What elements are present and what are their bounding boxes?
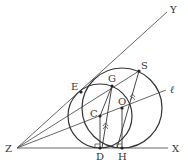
segment-gd	[102, 86, 112, 148]
label-h: H	[118, 151, 127, 162]
point-h	[120, 146, 123, 149]
label-o: O	[118, 96, 126, 107]
label-g: G	[108, 73, 116, 84]
label-c: C	[90, 108, 98, 119]
geometry-diagram: Z X Y ℓ D H C O G S E	[0, 0, 188, 163]
line-l	[17, 90, 166, 148]
point-c	[98, 114, 101, 117]
label-z: Z	[5, 143, 12, 154]
ray-zy	[17, 12, 167, 148]
label-d: D	[96, 151, 104, 162]
label-l: ℓ	[170, 84, 174, 95]
point-g	[110, 84, 113, 87]
label-s: S	[141, 60, 148, 71]
label-y: Y	[169, 4, 177, 15]
label-x: X	[172, 143, 180, 154]
point-d	[98, 146, 101, 149]
label-e: E	[71, 81, 78, 92]
point-e	[79, 90, 82, 93]
